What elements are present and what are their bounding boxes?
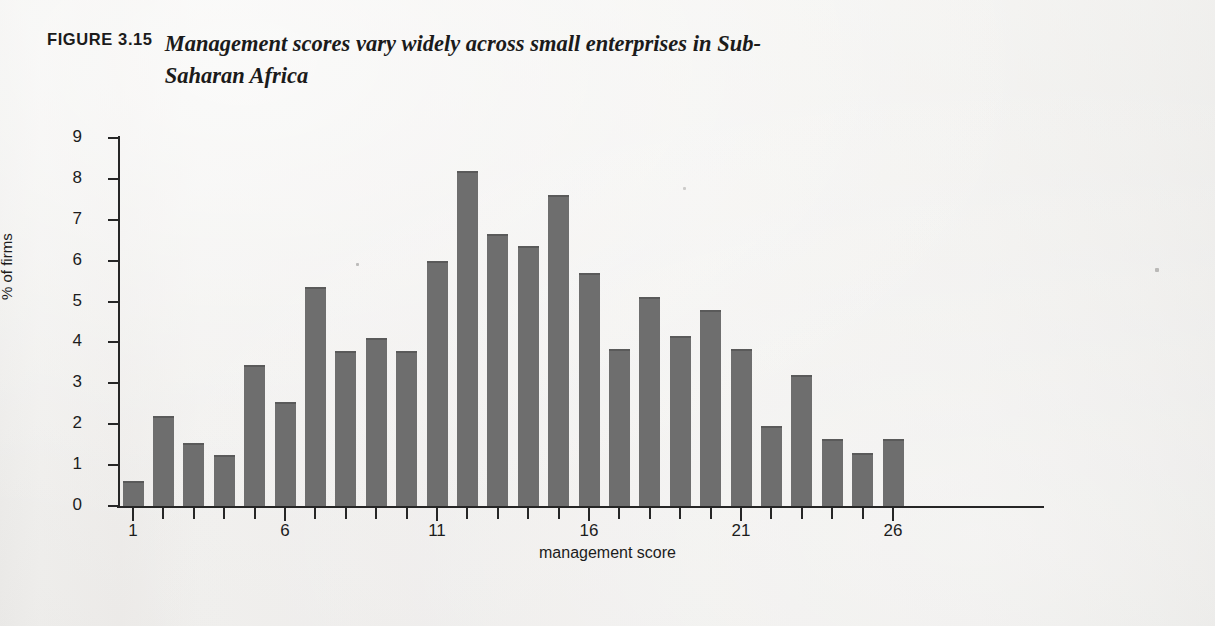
paper-background	[0, 0, 1215, 626]
figure-caption: FIGURE 3.15 Management scores vary widel…	[47, 28, 907, 92]
figure-title: Management scores vary widely across sma…	[165, 28, 820, 92]
figure-number: FIGURE 3.15	[47, 28, 153, 49]
paper-speck	[683, 187, 686, 190]
paper-speck	[1155, 268, 1159, 272]
paper-speck	[356, 263, 359, 266]
